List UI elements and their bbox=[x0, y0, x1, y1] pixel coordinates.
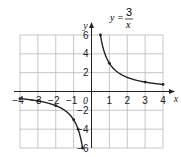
svg-text:6: 6 bbox=[83, 30, 89, 41]
svg-text:−1: −1 bbox=[66, 95, 78, 106]
svg-text:2: 2 bbox=[124, 95, 130, 106]
svg-text:x: x bbox=[173, 93, 179, 104]
svg-text:3: 3 bbox=[142, 95, 148, 106]
equation-denominator: x bbox=[125, 19, 131, 30]
svg-text:y: y bbox=[82, 20, 88, 31]
svg-text:−2: −2 bbox=[48, 95, 60, 106]
svg-text:−6: −6 bbox=[77, 143, 89, 154]
equation-label: y = 3 x bbox=[109, 6, 133, 30]
tick-labels: −4−3−2−11234642−2−4−60xy bbox=[12, 20, 178, 154]
svg-text:−4: −4 bbox=[12, 95, 24, 106]
svg-text:2: 2 bbox=[83, 67, 89, 78]
equation-lhs: y = bbox=[109, 12, 124, 23]
svg-text:4: 4 bbox=[160, 95, 166, 106]
chart: −4−3−2−11234642−2−4−60xy y = 3 x bbox=[0, 0, 181, 157]
svg-text:1: 1 bbox=[107, 95, 113, 106]
svg-text:−3: −3 bbox=[30, 95, 42, 106]
svg-text:4: 4 bbox=[83, 48, 89, 59]
equation-numerator: 3 bbox=[126, 6, 132, 18]
svg-text:−4: −4 bbox=[77, 124, 89, 135]
svg-text:0: 0 bbox=[83, 95, 88, 106]
svg-text:−2: −2 bbox=[77, 105, 89, 116]
